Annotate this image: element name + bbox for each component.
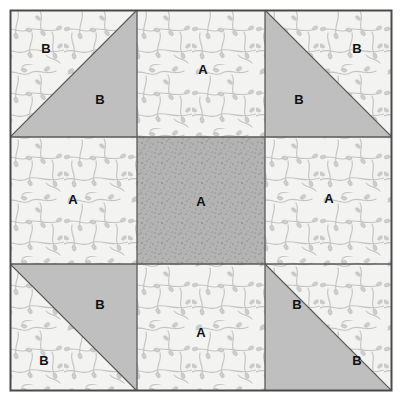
label-middle-right: A xyxy=(324,191,334,206)
unit-top-right xyxy=(265,10,392,137)
label-top-left-solid: B xyxy=(95,92,104,107)
label-top-right-print: B xyxy=(352,41,361,56)
label-bottom-center: A xyxy=(196,325,206,340)
quilt-block-canvas: B B A B B A A A B B A B B xyxy=(0,0,402,401)
label-top-left-print: B xyxy=(41,41,50,56)
unit-top-left xyxy=(10,10,137,137)
unit-bottom-right xyxy=(265,264,392,391)
label-middle-left: A xyxy=(68,192,78,207)
label-bottom-right-print: B xyxy=(352,353,361,368)
label-bottom-right-solid: B xyxy=(292,297,301,312)
label-bottom-left-print: B xyxy=(39,353,48,368)
label-top-right-solid: B xyxy=(294,92,303,107)
label-center: A xyxy=(196,194,206,209)
label-bottom-left-solid: B xyxy=(95,297,104,312)
unit-bottom-left xyxy=(10,264,137,391)
quilt-block-diagram: B B A B B A A A B B A B B xyxy=(0,0,402,401)
label-top-center: A xyxy=(198,62,208,77)
